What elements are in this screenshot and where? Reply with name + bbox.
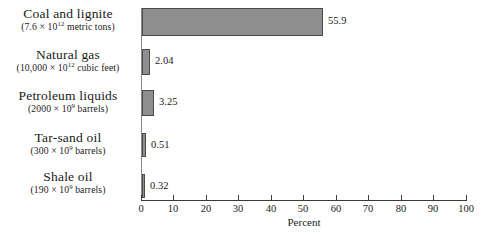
x-axis-tick-label: 90 (418, 203, 448, 214)
x-axis-tick (238, 195, 239, 201)
sublabel-prefix: (2000 × 10 (28, 103, 72, 114)
sublabel-prefix: (7.6 × 10 (21, 21, 57, 32)
bar-tar-sand-oil (142, 133, 146, 157)
category-name: Coal and lignite (0, 7, 136, 21)
sublabel-suffix: barrels) (73, 145, 106, 156)
category-sublabel: (300 × 109 barrels) (0, 146, 136, 156)
x-axis-tick (466, 195, 467, 201)
category-label-shale-oil: Shale oil (190 × 109 barrels) (0, 170, 136, 196)
category-sublabel: (190 × 109 barrels) (0, 185, 136, 195)
bar-value-coal-and-lignite: 55.9 (328, 15, 346, 26)
category-name: Petroleum liquids (0, 89, 136, 103)
sublabel-suffix: metric tons) (64, 21, 114, 32)
x-axis-tick-label: 10 (158, 203, 188, 214)
x-axis-tick (206, 195, 207, 201)
x-axis-tick-label: 20 (191, 203, 221, 214)
bar-value-tar-sand-oil: 0.51 (151, 139, 169, 150)
sublabel-prefix: (300 × 10 (30, 145, 69, 156)
x-axis-tick (271, 195, 272, 201)
x-axis-tick-label: 30 (223, 203, 253, 214)
bar-value-shale-oil: 0.32 (150, 180, 168, 191)
x-axis-tick-label: 60 (321, 203, 351, 214)
sublabel-exponent: 12 (68, 61, 75, 68)
bar-petroleum-liquids (142, 90, 154, 116)
sublabel-prefix: (190 × 10 (30, 184, 69, 195)
x-axis-tick-label: 40 (256, 203, 286, 214)
sublabel-suffix: cubic feet) (75, 62, 120, 73)
sublabel-prefix: (10,000 × 10 (17, 62, 68, 73)
category-label-tar-sand-oil: Tar-sand oil (300 × 109 barrels) (0, 131, 136, 157)
category-sublabel: (2000 × 109 barrels) (0, 104, 136, 114)
category-sublabel: (7.6 × 1012 metric tons) (0, 22, 136, 32)
x-axis-tick-label: 0 (126, 203, 156, 214)
plot-area: 55.9 2.04 3.25 0.51 0.32 0 10 20 30 40 5… (141, 0, 471, 233)
x-axis-tick (401, 195, 402, 201)
x-axis-tick-label: 70 (353, 203, 383, 214)
x-axis-tick (173, 195, 174, 201)
category-label-coal-and-lignite: Coal and lignite (7.6 × 1012 metric tons… (0, 7, 136, 33)
x-axis-title: Percent (141, 216, 467, 228)
bar-shale-oil (142, 174, 145, 198)
bar-coal-and-lignite (142, 8, 323, 36)
bar-value-petroleum-liquids: 3.25 (159, 96, 177, 107)
x-axis-tick-label: 100 (451, 203, 481, 214)
x-axis-tick-label: 80 (386, 203, 416, 214)
category-sublabel: (10,000 × 1012 cubic feet) (0, 63, 136, 73)
x-axis-tick (141, 195, 142, 201)
category-label-petroleum-liquids: Petroleum liquids (2000 × 109 barrels) (0, 89, 136, 115)
x-axis-tick-label: 50 (288, 203, 318, 214)
sublabel-suffix: barrels) (73, 184, 106, 195)
bar-value-natural-gas: 2.04 (155, 55, 173, 66)
x-axis-tick (336, 195, 337, 201)
sublabel-suffix: barrels) (75, 103, 108, 114)
horizontal-bar-chart: Coal and lignite (7.6 × 1012 metric tons… (0, 0, 488, 233)
x-axis-tick (303, 195, 304, 201)
x-axis-tick (368, 195, 369, 201)
category-label-natural-gas: Natural gas (10,000 × 1012 cubic feet) (0, 48, 136, 74)
bar-natural-gas (142, 49, 150, 75)
x-axis-line (141, 200, 467, 201)
x-axis-tick (433, 195, 434, 201)
category-name: Shale oil (0, 170, 136, 184)
category-name: Tar-sand oil (0, 131, 136, 145)
